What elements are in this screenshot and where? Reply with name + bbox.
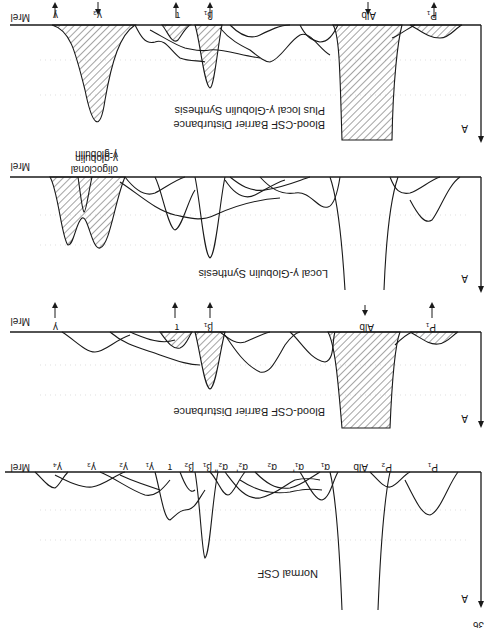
axis-a: A <box>461 123 468 134</box>
axis-mrel: Mrel <box>11 316 30 327</box>
axis-a: A <box>461 413 468 424</box>
axis-mrel: Mrel <box>11 12 30 23</box>
page-number: 36 <box>472 620 484 628</box>
label-gamma3: γ₃ <box>87 462 96 473</box>
panel4-title: Normal CSF <box>257 568 318 580</box>
label-alb: Alb <box>359 322 374 333</box>
label-tau: τ <box>175 322 179 333</box>
axis-a: A <box>461 273 468 284</box>
label-alb: Alb <box>353 462 368 473</box>
label-p2: P₂ <box>381 462 392 473</box>
label-gamma4: γ₄ <box>53 462 62 473</box>
panel2-title: Local γ-Globulin Synthesis <box>198 268 328 280</box>
label-beta1: β₁ <box>203 10 213 21</box>
panel3-arrows <box>52 302 435 318</box>
label-tau: τ <box>176 10 180 21</box>
axis-mrel: Mrel <box>11 161 30 172</box>
label-gamma3: γ₃ <box>93 10 102 21</box>
label-gamma: γ <box>53 322 58 333</box>
axis-mrel: Mrel <box>11 462 30 473</box>
panel-barrier-plus-local: P₁ Alb β₁ τ γ₃ γ Mrel A Blood-CSF Barrie… <box>10 2 484 160</box>
panel1-title-line2: Plus local γ-Globulin Synthesis <box>174 105 325 117</box>
background-grid <box>40 60 470 540</box>
panel-local-synthesis: Mrel A Local γ-Globulin Synthesis oligoc… <box>10 153 484 293</box>
label-beta1: β₁ <box>202 462 212 473</box>
panel-normal-csf: P₁ P₂ Alb α₁ α₁' α₂ α₂' α₂'' β₁ β₂ τ γ₁ … <box>5 462 484 628</box>
label-alb: Alb <box>361 10 376 21</box>
label-alpha1: α₁ <box>320 462 330 473</box>
label-tau: τ <box>168 462 172 473</box>
label-p1: P₁ <box>425 322 436 333</box>
label-beta1: β₁ <box>203 322 213 333</box>
label-gamma1: γ₁ <box>145 462 154 473</box>
panel1-title-line1: Blood-CSF Barrier Disturbance <box>173 119 325 131</box>
axis-a: A <box>461 593 468 604</box>
panel2-annotation-line2: γ-globulin <box>75 153 118 164</box>
label-alpha2: α₂ <box>267 462 277 473</box>
panel3-title: Blood-CSF Barrier Disturbance <box>173 406 325 418</box>
label-p1: P₁ <box>427 462 438 473</box>
label-gamma2: γ₂ <box>119 462 128 473</box>
panel-barrier-disturbance: P₁ Alb β₁ τ γ Mrel A Blood-CSF Barrier D… <box>10 302 484 428</box>
electrophoresis-figure: P₁ Alb β₁ τ γ₃ γ Mrel A Blood-CSF Barrie… <box>0 0 484 628</box>
label-alpha2-prime: α₂' <box>236 462 248 473</box>
panel2-annotation-line1: oligoclonal <box>71 164 118 175</box>
label-beta2: β₂ <box>184 462 194 473</box>
label-alpha1-prime: α₁' <box>293 462 304 473</box>
label-alpha2-dprime: α₂'' <box>214 462 228 473</box>
panel1-arrows <box>52 2 437 18</box>
label-p1: P₁ <box>426 10 437 21</box>
label-gamma: γ <box>53 10 58 21</box>
